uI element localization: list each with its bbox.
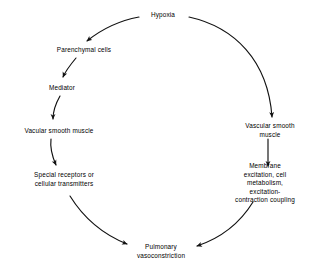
edge-parenchymal-to-mediator — [63, 58, 76, 77]
node-vascular-smooth-muscle-right: Vascular smooth muscle — [242, 122, 298, 139]
edge-hypoxia-to-parenchymal — [87, 17, 139, 41]
edge-membrane-to-vaso — [197, 202, 253, 246]
node-mediator: Mediator — [49, 84, 75, 93]
node-vascular-smooth-muscle-left: Vacular smooth muscle — [24, 127, 93, 136]
node-special-receptors: Special receptors or cellular transmitte… — [34, 171, 94, 188]
diagram-canvas: Hypoxia Parenchymal cells Mediator Vacul… — [0, 0, 326, 270]
edge-receptors-to-vaso — [70, 196, 127, 244]
node-hypoxia: Hypoxia — [151, 11, 175, 20]
edge-vsm-left-to-receptors — [51, 139, 56, 165]
node-parenchymal-cells: Parenchymal cells — [57, 46, 111, 55]
edge-mediator-to-vsm-left — [53, 96, 60, 119]
edge-hypoxia-to-vsm-right — [189, 17, 272, 117]
node-membrane-excitation: Membrane excitation, cell metabolism, ex… — [235, 162, 296, 205]
node-pulmonary-vasoconstriction: Pulmonary vasoconstriction — [137, 243, 185, 260]
